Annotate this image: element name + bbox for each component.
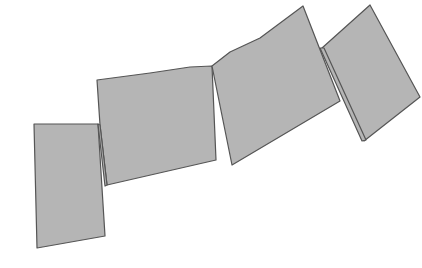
panel-1	[34, 124, 105, 248]
folded-strip-diagram	[0, 0, 422, 268]
